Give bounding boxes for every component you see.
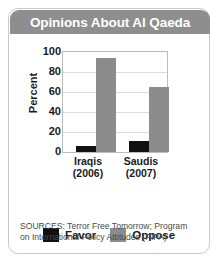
y-axis-ticks: 100 80 60 40 20 0 — [27, 51, 61, 151]
bar-saudis-favor — [129, 141, 149, 152]
y-tick-label: 20 — [27, 126, 61, 137]
x-label-line: Saudis — [115, 155, 167, 167]
chart-card: Opinions About Al Qaeda Percent 100 80 6… — [8, 8, 210, 254]
y-tick-label: 80 — [27, 66, 61, 77]
sources-line-1: SOURCES: Terror Free Tomorrow; Program — [20, 221, 200, 232]
chart-header: Opinions About Al Qaeda — [10, 10, 210, 34]
x-label-line: Iraqis — [62, 155, 114, 167]
bar-iraqis-oppose — [96, 58, 116, 152]
bar-chart: Percent 100 80 60 40 20 0 Iraqis (2006) — [9, 35, 209, 195]
bar-iraqis-favor — [76, 146, 96, 152]
x-label-group-saudis: Saudis (2007) — [115, 155, 167, 179]
plot-area — [62, 51, 168, 153]
page-title: Opinions About Al Qaeda — [30, 15, 190, 30]
y-tick-label: 60 — [27, 86, 61, 97]
bar-saudis-oppose — [149, 87, 169, 152]
x-axis-labels: Iraqis (2006) Saudis (2007) — [62, 155, 168, 191]
x-label-line: (2007) — [115, 167, 167, 179]
x-label-group-iraqis: Iraqis (2006) — [62, 155, 114, 179]
sources-note: SOURCES: Terror Free Tomorrow; Program o… — [20, 221, 200, 243]
sources-line-2: on International Policy Attitudes (PIPA) — [20, 232, 200, 243]
x-label-line: (2006) — [62, 167, 114, 179]
y-tick-label: 100 — [27, 46, 61, 57]
y-tick-label: 40 — [27, 106, 61, 117]
y-tick-label: 0 — [27, 146, 61, 157]
